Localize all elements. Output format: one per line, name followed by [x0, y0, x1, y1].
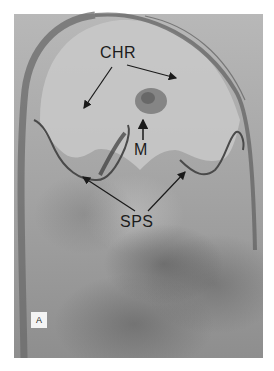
panel-label: A	[31, 312, 47, 328]
m-structure-core	[141, 92, 155, 104]
label-chr: CHR	[100, 44, 136, 62]
sps-arrow-right	[148, 172, 185, 211]
label-sps: SPS	[120, 213, 154, 231]
sps-arrow-left	[83, 177, 135, 211]
label-m: M	[134, 141, 148, 159]
